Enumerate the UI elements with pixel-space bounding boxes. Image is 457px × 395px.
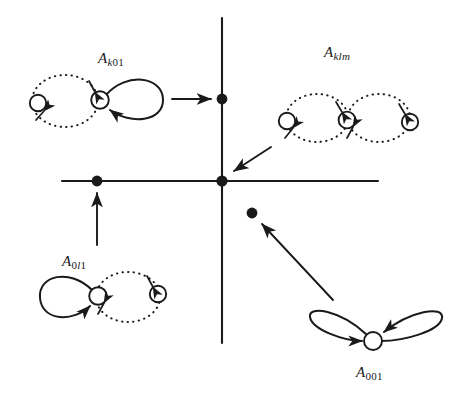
a-0l1-node-right bbox=[150, 286, 166, 302]
a-k01-solid-loop bbox=[106, 80, 163, 120]
quadrant-four-point bbox=[247, 208, 258, 219]
connector-arrows bbox=[97, 99, 333, 300]
arrow-001-to-quadrant-point bbox=[262, 224, 333, 300]
label-a-k01: Ak01 bbox=[98, 50, 124, 68]
vertical-axis-point bbox=[217, 94, 228, 105]
label-a-001-subscript: 001 bbox=[365, 370, 382, 382]
marked-points bbox=[92, 94, 258, 219]
graph-a-klm bbox=[279, 94, 418, 142]
label-a-0l1: A0l1 bbox=[62, 253, 86, 271]
a-klm-node-1 bbox=[279, 113, 295, 129]
label-a-001-letter: A bbox=[356, 364, 365, 380]
label-a-klm-subscript: klm bbox=[333, 50, 350, 62]
graph-a-k01 bbox=[30, 75, 163, 127]
label-a-k01-subscript: k01 bbox=[107, 56, 124, 68]
graph-a-001 bbox=[310, 311, 442, 350]
a-0l1-node-left bbox=[89, 287, 107, 305]
diagram-canvas bbox=[0, 0, 457, 395]
a-klm-node-3 bbox=[402, 114, 418, 130]
a-k01-tick-right bbox=[89, 81, 95, 92]
label-a-klm: Aklm bbox=[324, 44, 350, 62]
label-a-0l1-letter: A bbox=[62, 253, 71, 269]
a-klm-tick-3 bbox=[399, 104, 405, 114]
graph-a-0l1 bbox=[40, 272, 166, 322]
a-k01-node-left bbox=[30, 95, 46, 111]
label-a-001: A001 bbox=[356, 364, 383, 382]
label-a-k01-letter: A bbox=[98, 50, 107, 66]
label-a-0l1-subscript: 0l1 bbox=[71, 259, 86, 271]
origin-point bbox=[216, 175, 227, 186]
a-001-solid-loop-right bbox=[381, 311, 442, 341]
label-a-klm-letter: A bbox=[324, 44, 333, 60]
a-k01-node-right bbox=[91, 91, 109, 109]
a-0l1-solid-loop bbox=[40, 277, 92, 317]
graph-diagram-figure: Ak01 Aklm A0l1 A001 bbox=[0, 0, 457, 395]
a-001-solid-loop-left bbox=[310, 311, 366, 341]
horizontal-axis-point bbox=[92, 176, 103, 187]
arrow-klm-to-origin bbox=[234, 147, 271, 171]
a-klm-dotted-loop-2 bbox=[348, 94, 410, 142]
a-klm-node-2 bbox=[339, 112, 356, 129]
a-001-node bbox=[364, 332, 382, 350]
